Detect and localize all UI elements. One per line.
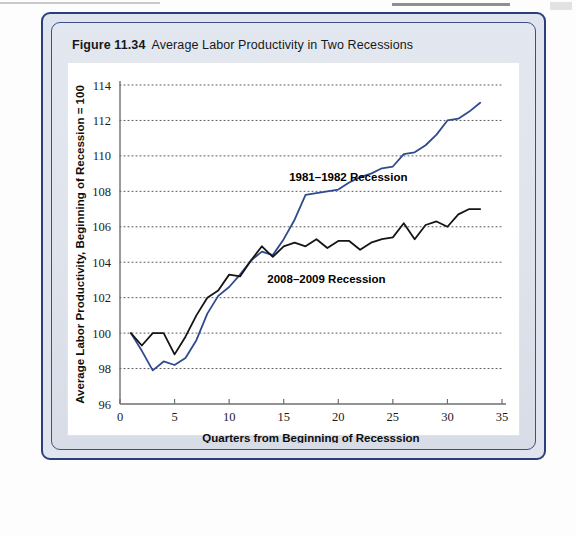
x-tick-label: 0 xyxy=(117,410,123,424)
x-tick-label: 35 xyxy=(496,410,509,424)
x-tick-label: 20 xyxy=(332,410,345,424)
x-tick-label: 25 xyxy=(387,410,400,424)
scanned-page: Figure 11.34Average Labor Productivity i… xyxy=(0,0,576,536)
gridlines xyxy=(120,85,502,369)
series-annotation-1981-1982: 1981–1982 Recession xyxy=(289,171,407,183)
figure-panel: Figure 11.34Average Labor Productivity i… xyxy=(41,12,546,460)
y-tick-label: 98 xyxy=(99,362,112,376)
page-top-rule-left xyxy=(0,2,160,4)
series-lines xyxy=(131,103,480,371)
page-corner-mark xyxy=(550,2,572,10)
figure-title: Average Labor Productivity in Two Recess… xyxy=(151,38,413,52)
series-annotations: 1981–1982 Recession2008–2009 Recession xyxy=(267,171,407,286)
series-line-1981-1982 xyxy=(131,103,480,371)
x-tick-label: 30 xyxy=(441,410,454,424)
y-tick-label: 112 xyxy=(93,114,111,128)
line-chart: 9698100102104106108110112114 05101520253… xyxy=(68,63,509,443)
y-tick-label: 110 xyxy=(93,149,111,163)
figure-panel-inner-border: Figure 11.34Average Labor Productivity i… xyxy=(51,22,536,450)
x-tick-label: 15 xyxy=(277,410,290,424)
x-tick-label: 5 xyxy=(171,410,177,424)
y-tick-label: 108 xyxy=(92,185,111,199)
figure-number: Figure 11.34 xyxy=(72,38,145,52)
x-tick-label: 10 xyxy=(223,410,236,424)
y-tick-label: 114 xyxy=(93,79,112,93)
y-tick-label: 102 xyxy=(92,291,111,305)
axis-titles: Quarters from Beginning of RecesssionAve… xyxy=(74,85,420,443)
x-axis-tick-labels: 05101520253035 xyxy=(117,410,508,424)
y-tick-label: 96 xyxy=(99,398,112,412)
x-axis-title: Quarters from Beginning of Recesssion xyxy=(202,432,419,443)
figure-caption: Figure 11.34Average Labor Productivity i… xyxy=(72,38,413,52)
y-tick-label: 106 xyxy=(92,220,111,234)
chart-card: 9698100102104106108110112114 05101520253… xyxy=(68,63,519,435)
y-tick-label: 104 xyxy=(92,256,112,270)
y-axis-title: Average Labor Productivity, Beginning of… xyxy=(74,85,86,404)
x-axis-ticks xyxy=(120,399,502,404)
series-annotation-2008-2009: 2008–2009 Recession xyxy=(267,273,385,285)
axes xyxy=(120,81,506,404)
y-axis-tick-labels: 9698100102104106108110112114 xyxy=(92,79,112,412)
y-tick-label: 100 xyxy=(92,327,111,341)
page-top-rule-right xyxy=(392,3,510,6)
